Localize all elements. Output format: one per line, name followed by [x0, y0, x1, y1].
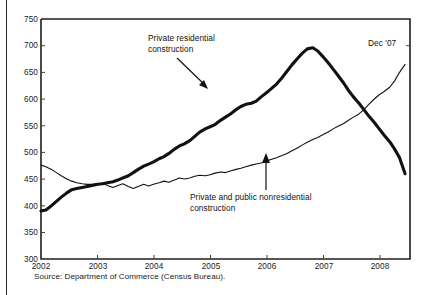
- plot-frame: [41, 19, 410, 259]
- chart-figure: 750 700 650 600 550 500 450 400 350 300 …: [0, 0, 428, 295]
- chart-plot-area: [0, 0, 428, 295]
- annotation-arrow-nonresidential: [262, 153, 270, 190]
- series-residential: [41, 48, 405, 211]
- annotation-arrow-residential: [177, 58, 208, 89]
- y-axis-ticks: [41, 46, 410, 233]
- series-nonresidential: [41, 64, 405, 188]
